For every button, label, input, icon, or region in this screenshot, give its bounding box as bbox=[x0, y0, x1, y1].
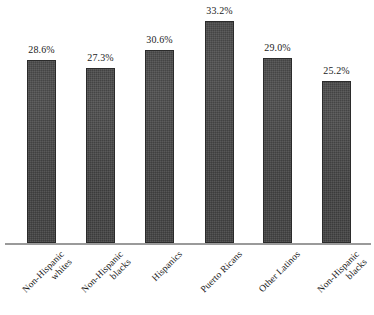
bar-value-label-5: 25.2% bbox=[323, 66, 349, 76]
bar-group-3: 33.2% bbox=[205, 21, 234, 243]
bar-group-0: 28.6% bbox=[27, 60, 56, 243]
plot-area: 28.6% 27.3% 30.6% 33.2% 29.0% 25.2% bbox=[0, 0, 374, 243]
bar-value-label-1: 27.3% bbox=[87, 53, 113, 63]
x-axis-label-4-line1: Other Latinos bbox=[257, 249, 302, 294]
x-axis-labels: Non-Hispanic whites Non-Hispanic blacks … bbox=[0, 243, 374, 315]
bar-group-4: 29.0% bbox=[263, 58, 292, 243]
bar-2[interactable] bbox=[145, 50, 174, 243]
bar-group-2: 30.6% bbox=[145, 50, 174, 243]
bar-value-label-4: 29.0% bbox=[264, 43, 290, 53]
bar-value-label-3: 33.2% bbox=[206, 6, 232, 16]
x-axis-label-5: Non-Hispanic blacks bbox=[303, 249, 369, 315]
bar-5[interactable] bbox=[322, 81, 351, 243]
bar-chart: 28.6% 27.3% 30.6% 33.2% 29.0% 25.2% Non-… bbox=[0, 0, 374, 315]
bar-group-1: 27.3% bbox=[86, 68, 115, 243]
x-axis-label-3-line1: Puerto Ricans bbox=[199, 249, 244, 294]
bar-group-5: 25.2% bbox=[322, 81, 351, 243]
x-axis-label-2-line1: Hispanics bbox=[150, 249, 184, 283]
x-axis-label-0: Non-Hispanic whites bbox=[8, 249, 74, 315]
bar-value-label-0: 28.6% bbox=[28, 45, 54, 55]
bar-0[interactable] bbox=[27, 60, 56, 243]
x-axis-label-4: Other Latinos bbox=[244, 249, 303, 308]
x-axis-label-1: Non-Hispanic blacks bbox=[67, 249, 133, 315]
bar-4[interactable] bbox=[263, 58, 292, 243]
bar-3[interactable] bbox=[205, 21, 234, 243]
x-axis-label-2: Hispanics bbox=[126, 249, 185, 308]
bar-value-label-2: 30.6% bbox=[146, 35, 172, 45]
bar-1[interactable] bbox=[86, 68, 115, 243]
x-axis-label-3: Puerto Ricans bbox=[186, 249, 245, 308]
